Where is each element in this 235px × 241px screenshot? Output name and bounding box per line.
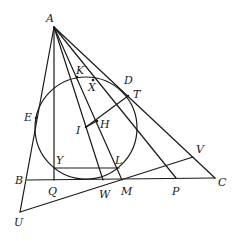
label-point-p: P xyxy=(171,185,180,198)
label-point-m: M xyxy=(120,185,133,198)
label-point-t: T xyxy=(133,88,142,101)
label-point-y: Y xyxy=(56,154,65,167)
point-e-dot xyxy=(35,117,38,120)
label-point-w: W xyxy=(99,188,112,201)
point-i-dot xyxy=(85,126,88,129)
label-point-q: Q xyxy=(48,185,57,198)
label-point-c: C xyxy=(218,176,227,189)
labels-group: ABCDTKXEHIYLQWMPVU xyxy=(14,12,227,229)
diagram-svg: ABCDTKXEHIYLQWMPVU xyxy=(0,0,235,241)
label-point-l: L xyxy=(114,154,122,167)
label-point-k: K xyxy=(75,64,85,77)
segment-i-h xyxy=(86,121,97,127)
label-point-v: V xyxy=(196,143,205,156)
point-t-dot xyxy=(127,95,130,98)
label-point-i: I xyxy=(75,124,81,137)
label-point-h: H xyxy=(99,118,110,131)
label-point-b: B xyxy=(14,174,23,187)
segment-u-v xyxy=(20,157,193,212)
label-point-d: D xyxy=(123,74,133,87)
geometry-diagram: ABCDTKXEHIYLQWMPVU xyxy=(0,0,235,241)
label-point-x: X xyxy=(87,81,97,94)
point-h-dot xyxy=(96,120,99,123)
label-point-a: A xyxy=(45,12,54,25)
label-point-u: U xyxy=(14,216,24,229)
label-point-e: E xyxy=(23,111,32,124)
segment-a-m xyxy=(54,27,122,180)
